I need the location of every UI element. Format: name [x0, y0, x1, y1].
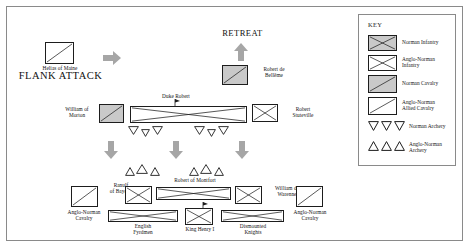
- anglo-norman-archery-triangle: [136, 164, 148, 174]
- label-king-henry-i: King Henry I: [172, 226, 228, 232]
- key-title: KEY: [368, 21, 382, 28]
- label-anglo-norman-cavalry-left: Anglo-Norman Cavalry: [55, 209, 113, 221]
- advance-arrow-down-icon: [168, 140, 184, 159]
- unit-robert-de-belleme-cavalry[interactable]: [222, 65, 248, 85]
- key-label-anglo-norman-archery: Anglo-Norman Archery: [409, 141, 457, 154]
- key-symbol-norman-archery: [394, 121, 405, 131]
- key-symbol-anglo-norman-archery: [368, 141, 379, 151]
- key-label-norman-cavalry: Norman Cavalry: [402, 80, 456, 86]
- unit-ranulf-of-bayeux-infantry[interactable]: [125, 186, 152, 204]
- unit-william-of-morton-cavalry[interactable]: [99, 104, 124, 123]
- anglo-norman-archery-triangle: [214, 167, 224, 176]
- norman-archery-triangle: [141, 129, 150, 137]
- anglo-norman-archery-triangle: [189, 167, 199, 176]
- key-label-norman-infantry: Norman Infantry: [402, 39, 456, 45]
- unit-helias-of-maine-cavalry[interactable]: [45, 42, 74, 64]
- advance-arrow-down-icon: [103, 140, 119, 159]
- key-label-anglo-norman-infantry: Anglo-Norman Infantry: [402, 56, 456, 69]
- key-symbol-anglo-norman-archery: [381, 141, 392, 151]
- key-panel: KEY Norman Infantry Anglo-Norman Infantr…: [358, 14, 456, 166]
- unit-king-henry-i[interactable]: [185, 208, 213, 225]
- key-symbol-norman-archery: [368, 121, 379, 131]
- norman-archery-triangle: [207, 129, 216, 137]
- unit-william-de-warenne-infantry[interactable]: [235, 186, 262, 204]
- anglo-norman-archery-triangle: [150, 167, 160, 176]
- label-dismounted-knights: Dismounted Knights: [224, 223, 282, 235]
- key-symbol-anglo-norman-archery: [394, 141, 405, 151]
- label-robert-de-belleme: Robert de Bellême: [250, 66, 298, 78]
- norman-archery-triangle: [128, 126, 139, 135]
- anglo-norman-archery-triangle: [125, 167, 135, 176]
- key-symbol-norman-infantry: [368, 35, 397, 51]
- advance-arrow-down-icon: [234, 140, 250, 159]
- anglo-norman-archery-triangle: [200, 164, 212, 174]
- battle-diagram: Helias of Maine FLANK ATTACK RETREAT Rob…: [0, 0, 471, 249]
- unit-robert-stuteville-infantry[interactable]: [252, 104, 278, 122]
- label-flank-attack: FLANK ATTACK: [8, 73, 113, 79]
- unit-anglo-norman-cavalry-right[interactable]: [296, 186, 323, 207]
- key-symbol-anglo-norman-infantry: [368, 55, 397, 71]
- unit-anglo-norman-cavalry-left[interactable]: [71, 186, 98, 207]
- unit-english-fyrdmen[interactable]: [108, 210, 178, 222]
- unit-dismounted-knights[interactable]: [221, 210, 284, 222]
- label-retreat: RETREAT: [190, 30, 295, 36]
- norman-archery-triangle: [152, 126, 163, 135]
- label-robert-of-montfort: Robert of Montfort: [155, 177, 235, 183]
- key-symbol-norman-cavalry: [368, 75, 397, 93]
- key-label-norman-archery: Norman Archery: [409, 123, 457, 129]
- norman-archery-triangle: [218, 126, 229, 135]
- key-symbol-anglo-norman-allied-cavalry: [368, 97, 397, 115]
- retreat-arrow-up-icon: [233, 43, 249, 62]
- label-english-fyrdmen: English Fyrdmen: [115, 223, 171, 235]
- flank-attack-arrow-right-icon: [103, 50, 122, 66]
- key-symbol-norman-archery: [381, 121, 392, 131]
- label-robert-stuteville: Robert Stuteville: [281, 106, 325, 118]
- label-william-of-morton: William of Morton: [55, 106, 99, 118]
- key-label-anglo-norman-allied-cavalry: Anglo-Norman Allied Cavalry: [402, 99, 456, 112]
- label-anglo-norman-cavalry-right: Anglo-Norman Cavalry: [281, 209, 339, 221]
- duke-robert-standard-icon: [174, 99, 182, 106]
- unit-duke-robert-infantry[interactable]: [130, 106, 247, 123]
- norman-archery-triangle: [194, 126, 205, 135]
- unit-robert-of-montfort-infantry[interactable]: [156, 187, 231, 200]
